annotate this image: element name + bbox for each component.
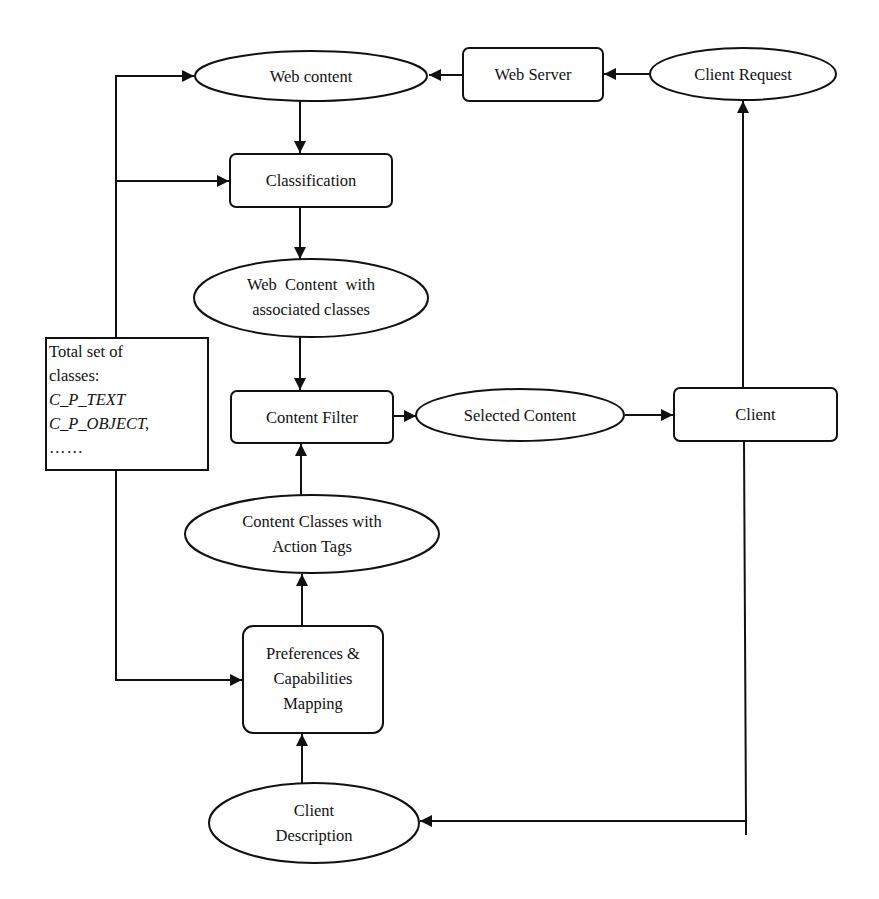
classification-label: Classification — [230, 167, 392, 193]
content-classes-tags-line2: Action Tags — [272, 534, 352, 559]
client-description-line1: Client — [294, 798, 334, 823]
web-content-classes-line1: Web Content with — [247, 272, 375, 297]
total-classes-line3: C_P_TEXT — [49, 388, 207, 412]
total-classes-line4: C_P_OBJECT, — [49, 412, 207, 436]
total-classes-line2: classes: — [49, 364, 207, 388]
preferences-mapping-line1: Preferences & — [266, 641, 360, 666]
web-content-label: Web content — [195, 63, 427, 89]
edge-client-to-client-description — [420, 441, 746, 821]
edge-total-classes-to-web-content — [116, 76, 194, 338]
client-description-line2: Description — [276, 823, 353, 848]
content-filter-label: Content Filter — [231, 404, 393, 430]
total-classes-line1: Total set of — [49, 340, 207, 364]
client-label: Client — [674, 401, 837, 427]
content-classes-tags-line1: Content Classes with — [242, 509, 381, 534]
preferences-mapping-line3: Mapping — [283, 691, 343, 716]
client-description-label: Client Description — [209, 798, 419, 848]
selected-content-label: Selected Content — [416, 402, 624, 428]
preferences-mapping-label: Preferences & Capabilities Mapping — [243, 641, 383, 716]
total-classes-line5: …… — [49, 436, 207, 460]
total-classes-text: Total set of classes: C_P_TEXT C_P_OBJEC… — [49, 340, 207, 460]
preferences-mapping-line2: Capabilities — [274, 666, 353, 691]
web-content-classes-line2: associated classes — [252, 297, 370, 322]
edge-total-classes-to-preferences — [116, 470, 242, 680]
content-classes-tags-label: Content Classes with Action Tags — [185, 509, 439, 559]
web-server-label: Web Server — [463, 61, 603, 87]
web-content-classes-label: Web Content with associated classes — [195, 272, 427, 322]
client-request-label: Client Request — [650, 61, 836, 87]
